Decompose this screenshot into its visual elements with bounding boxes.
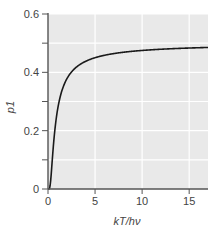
y-tick-label: 0.6	[24, 8, 39, 20]
y-tick-label: 0.4	[24, 66, 39, 78]
y-axis-ticks: 00.20.40.6	[24, 8, 48, 195]
x-tick-label: 15	[183, 195, 195, 207]
y-axis-label: p1	[4, 101, 16, 114]
y-tick-label: 0.2	[24, 125, 39, 137]
y-tick-label: 0	[33, 183, 39, 195]
x-axis-label: kT/hν	[114, 215, 141, 227]
x-tick-label: 10	[136, 195, 148, 207]
x-axis-ticks: 051015	[45, 189, 195, 207]
x-tick-label: 0	[45, 195, 51, 207]
x-tick-label: 5	[92, 195, 98, 207]
chart: 051015 00.20.40.6 kT/hν p1	[0, 0, 222, 235]
